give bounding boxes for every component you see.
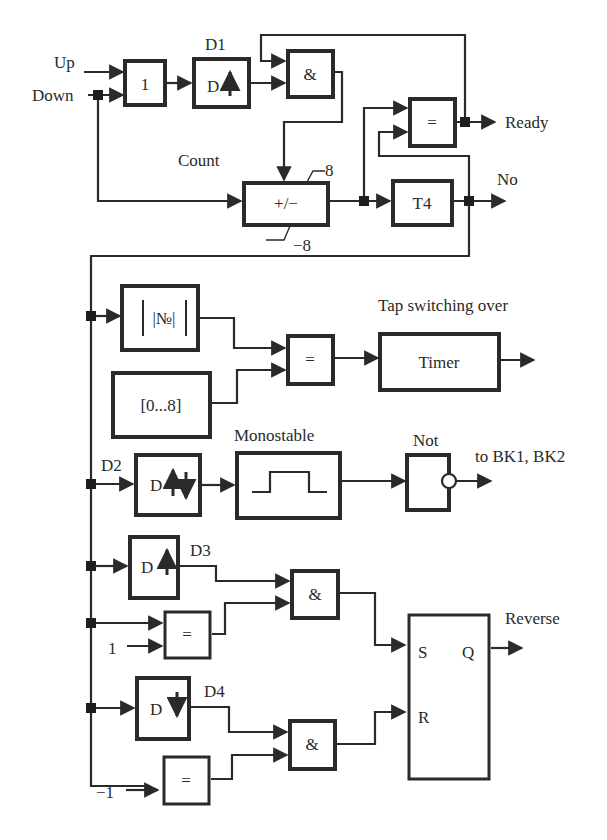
d1-rising-edge-block: D bbox=[194, 59, 249, 107]
monostable-block bbox=[237, 453, 340, 518]
no-output-label: No bbox=[497, 170, 518, 189]
no-junction bbox=[464, 196, 474, 206]
range-to-eq-wire bbox=[212, 370, 285, 403]
d4-to-and-wire bbox=[191, 707, 287, 732]
and-top-symbol: & bbox=[303, 65, 316, 84]
eq-one-symbol: = bbox=[182, 625, 192, 644]
eq-minus-one-symbol: = bbox=[181, 771, 191, 790]
lower-limit-label: −8 bbox=[293, 236, 311, 255]
not-gate-block bbox=[407, 455, 456, 510]
ready-junction bbox=[460, 117, 470, 127]
and-to-reset-wire bbox=[337, 712, 405, 744]
sr-out-label: Q bbox=[462, 643, 474, 662]
d3-rising-edge-block: D bbox=[130, 537, 178, 598]
tap-switching-label: Tap switching over bbox=[378, 296, 508, 315]
sr-set-label: S bbox=[418, 643, 427, 662]
d2-label: D2 bbox=[101, 456, 122, 475]
updown-counter-block: +/− bbox=[244, 183, 328, 225]
and-d4-symbol: & bbox=[305, 735, 318, 754]
input-up-label: Up bbox=[54, 53, 75, 72]
upper-limit-leader bbox=[307, 171, 325, 182]
count-label: Count bbox=[178, 151, 220, 170]
sr-reset-label: R bbox=[418, 708, 430, 727]
down-junction bbox=[93, 90, 103, 100]
logic-diagram: Up Down 1 D1 D & Count +/− 8 −8 = bbox=[0, 0, 607, 840]
or-symbol: 1 bbox=[141, 75, 150, 94]
and-d3-block: & bbox=[292, 571, 338, 618]
bus-junction-d2 bbox=[86, 479, 96, 489]
const-minus-one-label: −1 bbox=[96, 783, 114, 802]
bus-junction-d3 bbox=[86, 561, 96, 571]
eq-top-symbol: = bbox=[427, 113, 437, 132]
d3-symbol: D bbox=[141, 558, 153, 577]
input-down-label: Down bbox=[32, 86, 74, 105]
d1-symbol: D bbox=[207, 77, 219, 96]
d4-falling-edge-block: D bbox=[137, 678, 189, 739]
monostable-label: Monostable bbox=[234, 426, 314, 445]
bus-junction-abs bbox=[86, 311, 96, 321]
timer-block: Timer bbox=[380, 334, 499, 390]
reverse-output-label: Reverse bbox=[505, 609, 560, 628]
counter-symbol: +/− bbox=[274, 194, 298, 213]
d3-to-and-wire bbox=[180, 566, 289, 581]
abs-to-eq-wire bbox=[200, 318, 285, 348]
bk-output-label: to BK1, BK2 bbox=[475, 447, 565, 466]
upper-limit-label: 8 bbox=[325, 161, 334, 180]
range-symbol: [0...8] bbox=[140, 396, 181, 415]
d2-symbol: D bbox=[150, 476, 162, 495]
t4-block: T4 bbox=[393, 181, 452, 225]
equal-minus-one-block: = bbox=[164, 757, 209, 804]
d4-symbol: D bbox=[150, 700, 162, 719]
bus-junction-eq1 bbox=[86, 618, 96, 628]
d3-label: D3 bbox=[190, 541, 211, 560]
inversion-bubble-icon bbox=[442, 474, 456, 488]
const-one-label: 1 bbox=[108, 639, 117, 658]
equal-one-block: = bbox=[165, 612, 210, 658]
ready-output-label: Ready bbox=[505, 113, 549, 132]
or-block: 1 bbox=[125, 61, 165, 105]
and-d3-symbol: & bbox=[308, 585, 321, 604]
timer-symbol: Timer bbox=[419, 353, 460, 372]
counter-out-junction bbox=[359, 196, 369, 206]
d2-both-edge-block: D bbox=[136, 455, 200, 515]
lower-limit-leader bbox=[266, 226, 290, 240]
d4-label: D4 bbox=[204, 682, 225, 701]
equal-top-block: = bbox=[410, 99, 455, 146]
bus-junction-d4 bbox=[86, 703, 96, 713]
sr-flipflop-block: S Q R bbox=[409, 615, 489, 779]
eq1-to-and-wire bbox=[212, 603, 289, 634]
eq-mid-symbol: = bbox=[305, 350, 315, 369]
abs-block: |№| bbox=[122, 286, 198, 350]
and-to-set-wire bbox=[340, 593, 405, 645]
not-label: Not bbox=[413, 431, 439, 450]
t4-symbol: T4 bbox=[413, 194, 432, 213]
d1-label: D1 bbox=[205, 35, 226, 54]
and-top-block: & bbox=[288, 51, 333, 97]
equal-mid-block: = bbox=[288, 336, 333, 384]
eqm1-to-and-wire bbox=[211, 755, 287, 779]
abs-symbol: |№| bbox=[152, 309, 175, 328]
and-d4-block: & bbox=[290, 721, 335, 769]
range-block: [0...8] bbox=[113, 373, 210, 437]
